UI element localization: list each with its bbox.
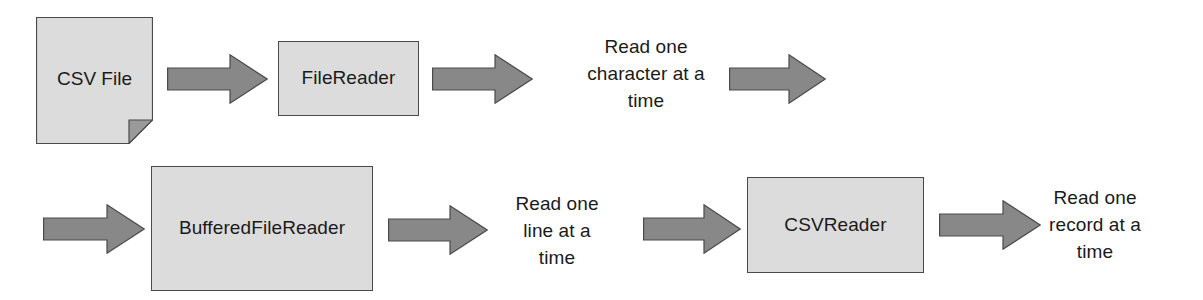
right-arrow-icon — [643, 204, 741, 254]
caption-line: time — [494, 244, 620, 271]
arrow-character-caption-to-next-row — [729, 54, 826, 104]
right-arrow-icon — [43, 204, 145, 254]
right-arrow-icon — [432, 54, 533, 104]
caption-line: Read one — [494, 190, 620, 217]
arrow-continuation-to-buffered-file-reader — [43, 204, 145, 254]
right-arrow-icon — [388, 205, 488, 255]
node-buffered-file-reader-label: BufferedFileReader — [179, 218, 345, 239]
node-file-reader-label: FileReader — [302, 68, 396, 89]
caption-line: character at a — [560, 60, 732, 87]
caption-read-one-character: Read one character at a time — [560, 33, 732, 114]
node-file-reader[interactable]: FileReader — [278, 41, 419, 116]
caption-read-one-record: Read one record at a time — [1020, 184, 1170, 265]
pipeline-diagram: CSV File FileReader Read one character a… — [0, 0, 1203, 300]
caption-line: time — [560, 87, 732, 114]
caption-line: record at a — [1020, 211, 1170, 238]
caption-line: line at a — [494, 217, 620, 244]
arrow-line-caption-to-csv-reader — [643, 204, 741, 254]
node-csv-reader-label: CSVReader — [784, 215, 886, 236]
caption-read-one-line: Read one line at a time — [494, 190, 620, 271]
node-csv-reader[interactable]: CSVReader — [747, 177, 924, 273]
arrow-file-reader-to-character-caption — [432, 54, 533, 104]
node-buffered-file-reader[interactable]: BufferedFileReader — [151, 166, 373, 291]
right-arrow-icon — [729, 54, 826, 104]
node-csv-file[interactable]: CSV File — [36, 17, 153, 144]
caption-line: Read one — [1020, 184, 1170, 211]
arrow-buffered-file-reader-to-line-caption — [388, 205, 488, 255]
node-csv-file-label: CSV File — [36, 68, 153, 90]
right-arrow-icon — [167, 54, 268, 104]
caption-line: time — [1020, 238, 1170, 265]
caption-line: Read one — [560, 33, 732, 60]
arrow-csv-file-to-file-reader — [167, 54, 268, 104]
